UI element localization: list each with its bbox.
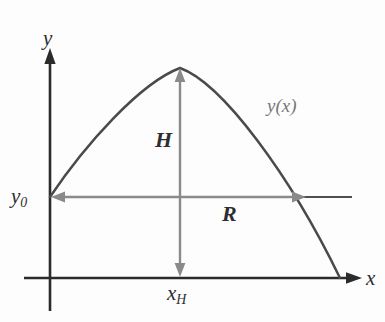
figure-canvas bbox=[0, 0, 385, 322]
initial-height-label-subscript: 0 bbox=[20, 195, 27, 210]
range-label: R bbox=[222, 203, 237, 225]
height-arrow-bottom-head-icon bbox=[175, 263, 186, 277]
y-axis-label: y bbox=[43, 28, 52, 49]
x-axis-label: x bbox=[366, 268, 375, 289]
curve-function-label: y(x) bbox=[267, 96, 297, 115]
initial-height-label: y0 bbox=[11, 186, 27, 210]
initial-height-label-base: y bbox=[11, 184, 20, 208]
x-axis-arrowhead-icon bbox=[346, 272, 362, 284]
y-axis-arrowhead-icon bbox=[44, 48, 55, 64]
apex-x-label-subscript: H bbox=[176, 292, 186, 307]
apex-x-label: xH bbox=[167, 283, 186, 307]
height-label: H bbox=[155, 129, 172, 151]
apex-x-label-base: x bbox=[167, 281, 176, 305]
projectile-trajectory-figure: y x y0 xH H R y(x) bbox=[0, 0, 385, 322]
